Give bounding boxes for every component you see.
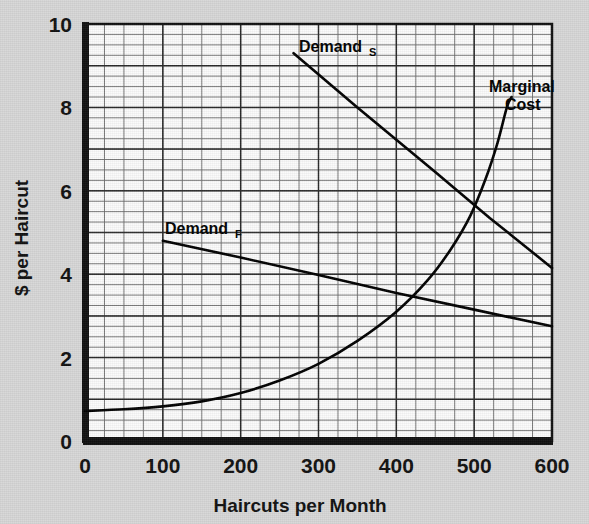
chart-page: 0100200300400500600 0246810 Haircuts per… <box>0 0 589 524</box>
y-tick-label: 8 <box>60 96 72 119</box>
x-tick-label: 300 <box>301 454 336 477</box>
y-tick-labels: 0246810 <box>49 13 73 453</box>
x-tick-label: 500 <box>457 454 492 477</box>
demand-f-label: Demand <box>165 220 228 237</box>
x-tick-label: 400 <box>379 454 414 477</box>
marginal-cost-label-line2: Cost <box>505 96 541 113</box>
x-tick-label: 600 <box>534 454 569 477</box>
y-tick-label: 0 <box>60 430 72 453</box>
demand-s-label: Demand <box>299 38 362 55</box>
demand-f-label-subscript: F <box>235 228 242 240</box>
x-tick-label: 0 <box>79 454 91 477</box>
y-tick-label: 6 <box>60 180 72 203</box>
y-tick-label: 4 <box>60 263 72 286</box>
x-axis-title: Haircuts per Month <box>213 495 386 516</box>
marginal-cost-label-line1: Marginal <box>489 78 555 95</box>
y-tick-label: 10 <box>49 13 72 36</box>
x-tick-label: 100 <box>145 454 180 477</box>
y-axis-title: $ per Haircut <box>11 179 32 296</box>
economics-chart: 0100200300400500600 0246810 Haircuts per… <box>0 0 589 524</box>
x-tick-label: 200 <box>223 454 258 477</box>
demand-s-label-subscript: S <box>369 46 376 58</box>
y-tick-label: 2 <box>60 347 72 370</box>
x-tick-labels: 0100200300400500600 <box>79 454 569 477</box>
